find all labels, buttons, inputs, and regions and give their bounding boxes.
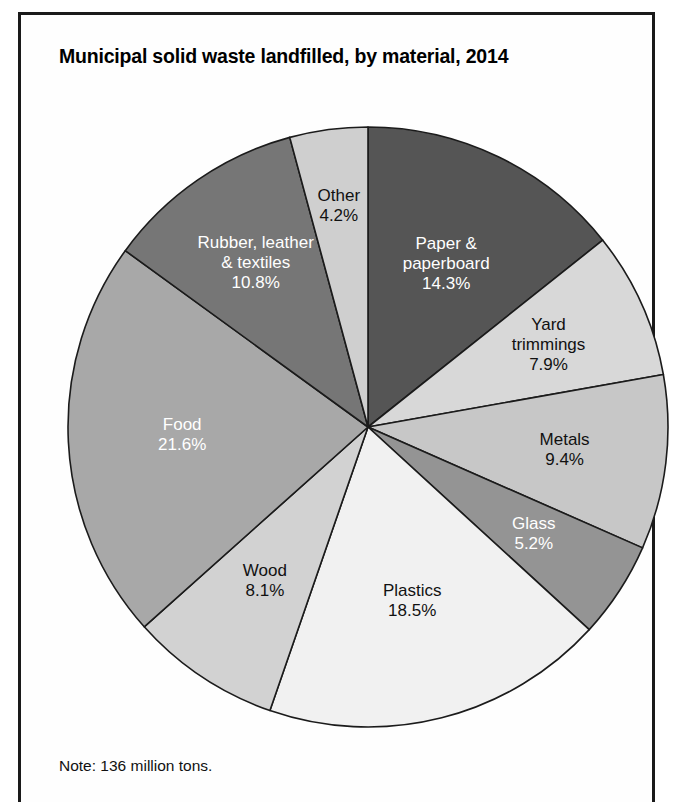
figure-frame: Municipal solid waste landfilled, by mat… [18,12,655,802]
pie-chart-svg: Paper &paperboard14.3%Yardtrimmings7.9%M… [39,111,676,731]
pie-slice-label: Wood8.1% [243,561,287,600]
pie-slice-label: Plastics18.5% [383,581,442,620]
pie-slice-group [68,127,668,727]
pie-slice-label: Metals9.4% [540,430,590,469]
pie-slice-label: Glass5.2% [512,515,555,554]
pie-slice-label: Other4.2% [318,186,361,225]
chart-note: Note: 136 million tons. [59,757,212,775]
page-title: Municipal solid waste landfilled, by mat… [59,45,508,68]
pie-chart: Paper &paperboard14.3%Yardtrimmings7.9%M… [39,111,676,731]
pie-slice-label: Food21.6% [158,416,206,455]
